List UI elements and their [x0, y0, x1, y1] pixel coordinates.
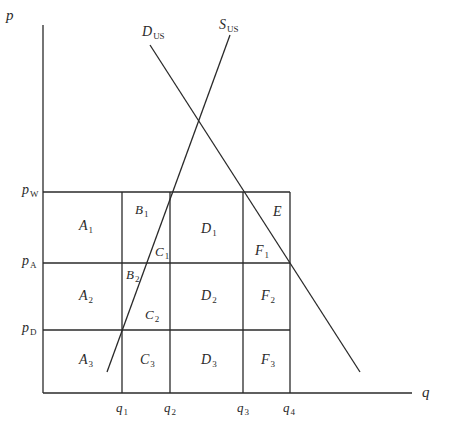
region-B1: B1: [135, 203, 148, 219]
region-F2: F2: [261, 289, 275, 305]
region-D1: D1: [201, 222, 217, 238]
demand-curve: [150, 45, 360, 372]
q4-label: q4: [283, 401, 295, 417]
supply-curve: [107, 35, 230, 372]
region-A3: A3: [79, 353, 93, 369]
region-A2: A2: [79, 289, 93, 305]
q3-label: q3: [237, 401, 249, 417]
region-E: E: [273, 205, 283, 221]
region-D2: D2: [201, 289, 217, 305]
q1-label: q1: [116, 401, 128, 417]
region-F1: F1: [255, 244, 269, 260]
pD-label: pD: [22, 321, 37, 337]
pA-label: pA: [22, 254, 37, 270]
region-C1: C1: [155, 245, 169, 261]
supply-curve-label: SUS: [219, 18, 239, 34]
region-C2: C2: [145, 308, 159, 324]
q2-label: q2: [164, 401, 176, 417]
region-C3: C3: [140, 353, 155, 369]
x-axis-label: q: [422, 385, 430, 400]
y-axis-label: p: [6, 8, 14, 23]
region-A1: A1: [79, 219, 93, 235]
region-F3: F3: [261, 353, 275, 369]
region-B2: B2: [126, 268, 139, 284]
demand-curve-label: DUS: [142, 25, 165, 41]
pw-label: pW: [22, 183, 39, 199]
supply-demand-diagram: p q DUS SUS pW pA pD q1 q2 q3 q4 A1 B1 C…: [0, 0, 453, 433]
diagram-canvas: [0, 0, 453, 433]
region-D3: D3: [201, 353, 217, 369]
